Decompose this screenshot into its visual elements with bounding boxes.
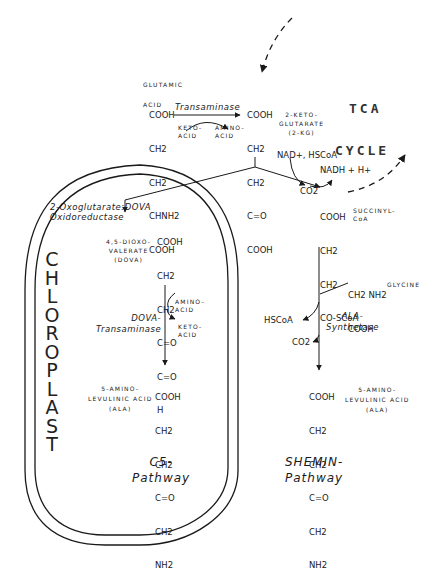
chloroplast-letter: P xyxy=(42,361,62,380)
chloroplast-letter: R xyxy=(42,324,62,343)
formula-line: CH2 NH2 xyxy=(348,290,387,301)
formula-line: CH2 xyxy=(149,178,180,189)
succinyl-coa-label: SUCCINYL- CoA xyxy=(353,207,396,223)
ketoglutarate-label: 2-KETO- GLUTARATE (2-KG) xyxy=(279,110,324,137)
nad-hscoa-label: NAD+, HSCoA xyxy=(277,151,337,160)
formula-line: COOH xyxy=(309,392,335,403)
formula-line: CH2 xyxy=(155,426,181,437)
dova-transaminase-label: DOVA- Transaminase xyxy=(96,313,161,335)
formula-line: COOH xyxy=(247,245,273,256)
ketoglutarate-structure: COOH CH2 CH2 C=O COOH xyxy=(247,88,273,267)
formula-line: C=O xyxy=(309,493,335,504)
chloroplast-letter: A xyxy=(42,398,62,417)
formula-line: COOH xyxy=(155,392,181,403)
glycine-structure: CH2 NH2 COOH xyxy=(348,268,387,346)
hscoa-label: HSCoA xyxy=(264,316,293,325)
tca-line2: CYCLE xyxy=(335,144,389,158)
formula-line: NH2 xyxy=(309,560,335,571)
nadh-label: NADH + H+ xyxy=(320,166,371,175)
chloroplast-letter: L xyxy=(42,287,62,306)
formula-line: COOH xyxy=(157,237,183,248)
formula-line: CH2 xyxy=(157,271,183,282)
oxidoreductase-label: 2-Oxoglutarate:DOVA Oxidoreductase xyxy=(50,202,151,222)
formula-line: CH2 xyxy=(309,426,335,437)
c5-keto-acid-label: KETO- ACID xyxy=(178,323,202,339)
tca-input-dashed-arrow xyxy=(262,18,292,72)
c5-pathway-title: C5- Pathway xyxy=(132,454,190,486)
c5-ala-label: 5-AMINO- LEVULINIC ACID (ALA) xyxy=(88,384,152,414)
chloroplast-label: C H L O R O P L A S T xyxy=(42,250,62,454)
formula-line: NH2 xyxy=(155,560,181,571)
dova-label: 4,5-DIOXO- VALERATE (DOVA) xyxy=(106,237,151,264)
formula-line: CH2 xyxy=(247,144,273,155)
co2-label: CO2 xyxy=(300,187,318,196)
chloroplast-letter: C xyxy=(42,250,62,269)
formula-line: C=O xyxy=(157,338,183,349)
transaminase-label: Transaminase xyxy=(175,103,240,112)
tca-line1: TCA xyxy=(335,102,389,116)
amino-acid-label: AMINO- ACID xyxy=(215,124,245,140)
formula-line: CH2 xyxy=(320,246,358,257)
formula-line: COOH xyxy=(149,110,180,121)
ala-synthetase-label: ALA- Synthetase xyxy=(326,311,379,333)
formula-line: CH2 xyxy=(155,527,181,538)
formula-line: CH2 xyxy=(309,527,335,538)
formula-line: C=O xyxy=(155,493,181,504)
shemin-pathway-title: SHEMIN- Pathway xyxy=(285,454,343,486)
shemin-ala-label: 5-AMINO- LEVULINIC ACID (ALA) xyxy=(345,385,409,415)
chloroplast-letter: T xyxy=(42,435,62,454)
formula-line: CH2 xyxy=(247,178,273,189)
formula-line: COOH xyxy=(247,110,273,121)
formula-line: C=O xyxy=(247,211,273,222)
keto-acid-label: KETO- ACID xyxy=(178,124,202,140)
glycine-label: GLYCINE xyxy=(387,282,420,288)
shemin-co2-label: CO2 xyxy=(292,338,310,347)
tca-cycle-label: TCA CYCLE xyxy=(335,74,389,172)
formula-line: CH2 xyxy=(149,144,180,155)
c5-amino-acid-label: AMINO- ACID xyxy=(175,298,205,314)
